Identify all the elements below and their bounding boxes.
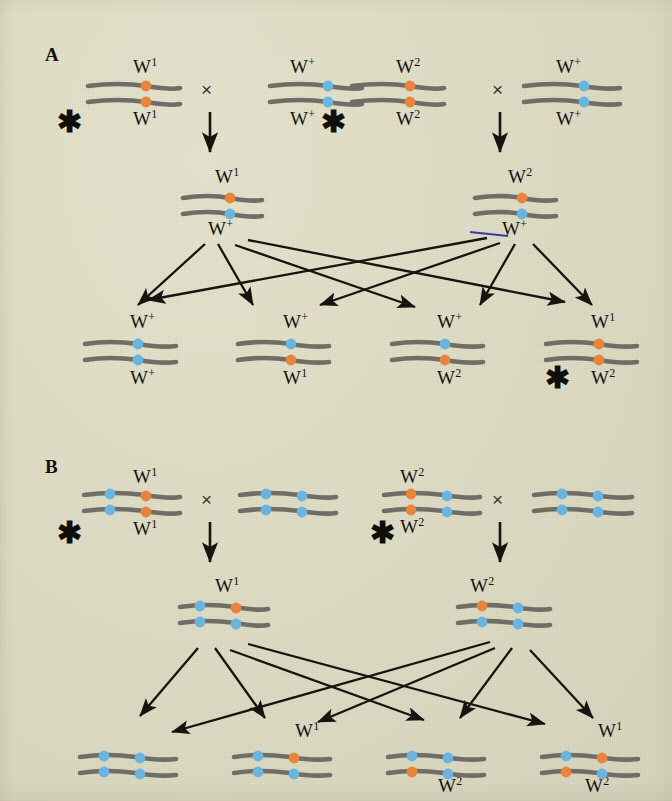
wildtype-allele-dot [597, 769, 608, 780]
mutant-allele-dot [517, 193, 528, 204]
accent-line-a-f1 [470, 232, 508, 236]
chromosome-pair-a-f1-right [475, 193, 556, 220]
arrow-a-r4 [533, 244, 592, 305]
chromosome-pair-b-p1-father [240, 489, 336, 518]
chromosome-pair-b-f2-3 [388, 751, 484, 780]
mutant-allele-dot [407, 767, 418, 778]
genetics-cross-figure: A W1 W1 ✱ W+ W+ × W2 W2 ✱ W+ W+ × W1 W+ … [0, 0, 672, 801]
wildtype-allele-dot [513, 603, 524, 614]
chromosome-pair-b-f1-left [180, 601, 268, 630]
mutant-allele-dot [141, 97, 152, 108]
wildtype-allele-dot [443, 769, 454, 780]
arrow-a-r3 [480, 244, 515, 305]
chromosome-pair-a-p2-mother [352, 81, 444, 108]
chromosome-pair-a-f2-2 [238, 339, 329, 366]
wildtype-allele-dot [253, 751, 264, 762]
wildtype-allele-dot [557, 505, 568, 516]
wildtype-allele-dot [579, 97, 590, 108]
chromosome-pair-b-f2-4 [542, 751, 638, 780]
chromosome-pair-b-f2-1 [80, 751, 176, 780]
wildtype-allele-dot [323, 81, 334, 92]
chromosome-pair-a-f1-left [183, 193, 262, 220]
wildtype-allele-dot [579, 81, 590, 92]
mutant-allele-dot [594, 339, 605, 350]
wildtype-allele-dot [297, 491, 308, 502]
mutant-allele-dot [594, 355, 605, 366]
chromosome-pair-a-p1-mother [88, 81, 180, 108]
wildtype-allele-dot [99, 767, 110, 778]
wildtype-allele-dot [225, 209, 236, 220]
arrow-a-l2 [218, 244, 253, 305]
wildtype-allele-dot [135, 753, 146, 764]
arrow-group-a-f1-to-f2 [138, 238, 592, 307]
wildtype-allele-dot [513, 619, 524, 630]
wildtype-allele-dot [593, 491, 604, 502]
wildtype-allele-dot [477, 617, 488, 628]
wildtype-allele-dot [195, 601, 206, 612]
arrow-b-r4 [530, 650, 593, 718]
wildtype-allele-dot [105, 505, 116, 516]
arrow-group-b-f1-to-f2 [140, 642, 593, 732]
chromosome-pair-a-f2-3 [392, 339, 483, 366]
wildtype-allele-dot [195, 617, 206, 628]
mutant-allele-dot [405, 81, 416, 92]
wildtype-allele-dot [231, 619, 242, 630]
wildtype-allele-dot [286, 339, 297, 350]
mutant-allele-dot [141, 491, 152, 502]
wildtype-allele-dot [261, 505, 272, 516]
mutant-allele-dot [289, 753, 300, 764]
chromosome-pair-a-p2-father [524, 81, 620, 108]
wildtype-allele-dot [133, 355, 144, 366]
wildtype-allele-dot [442, 507, 453, 518]
arrow-b-l4 [248, 644, 545, 724]
wildtype-allele-dot [99, 751, 110, 762]
wildtype-allele-dot [517, 209, 528, 220]
wildtype-allele-dot [440, 339, 451, 350]
wildtype-allele-dot [442, 491, 453, 502]
chromosome-pair-b-p2-mother [384, 489, 480, 518]
arrow-a-r1 [148, 238, 487, 300]
wildtype-allele-dot [253, 767, 264, 778]
arrow-b-l1 [140, 648, 198, 716]
arrow-b-r2 [318, 648, 495, 722]
mutant-allele-dot [141, 507, 152, 518]
wildtype-allele-dot [133, 339, 144, 350]
mutant-allele-dot [561, 767, 572, 778]
mutant-allele-dot [597, 753, 608, 764]
chromosome-pair-b-p1-mother [84, 489, 180, 518]
wildtype-allele-dot [443, 753, 454, 764]
chromosome-pair-a-f2-1 [85, 339, 176, 366]
wildtype-allele-dot [289, 769, 300, 780]
mutant-allele-dot [231, 603, 242, 614]
wildtype-allele-dot [297, 507, 308, 518]
chromosome-pair-a-f2-4 [546, 339, 637, 366]
mutant-allele-dot [141, 81, 152, 92]
mutant-allele-dot [286, 355, 297, 366]
mutant-allele-dot [406, 489, 417, 500]
figure-canvas [0, 0, 672, 801]
wildtype-allele-dot [407, 751, 418, 762]
chromosome-pair-a-p1-father [270, 81, 362, 108]
wildtype-allele-dot [261, 489, 272, 500]
mutant-allele-dot [405, 97, 416, 108]
mutant-allele-dot [440, 355, 451, 366]
mutant-allele-dot [225, 193, 236, 204]
mutant-allele-dot [477, 601, 488, 612]
arrow-a-l4 [248, 240, 565, 302]
wildtype-allele-dot [135, 769, 146, 780]
mutant-allele-dot [406, 505, 417, 516]
chromosome-pair-b-p2-father [534, 489, 632, 518]
wildtype-allele-dot [561, 751, 572, 762]
wildtype-allele-dot [593, 507, 604, 518]
chromosome-pair-b-f2-2 [234, 751, 330, 780]
wildtype-allele-dot [323, 97, 334, 108]
wildtype-allele-dot [105, 489, 116, 500]
chromosome-pair-b-f1-right [458, 601, 550, 630]
wildtype-allele-dot [557, 489, 568, 500]
